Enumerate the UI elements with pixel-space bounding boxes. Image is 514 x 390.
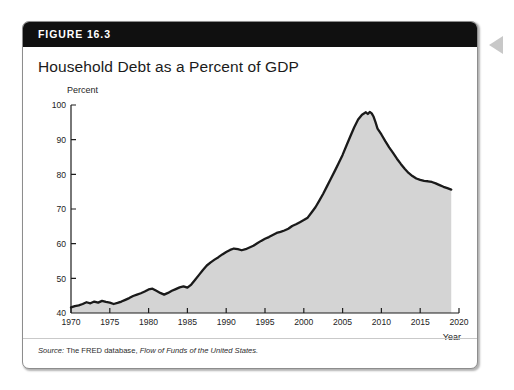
x-axis-tick-label: 1980 [139,317,158,327]
x-axis-tick-label: 2015 [411,317,430,327]
figure-source-note: Source: The FRED database, Flow of Funds… [38,346,258,355]
x-axis-name-label: Year [443,332,461,342]
y-axis-tick-label: 90 [56,135,66,145]
x-axis-tick-label: 1990 [217,317,236,327]
source-publication: Flow of Funds of the United States. [140,346,259,355]
chart-plot-area: 4050607080901001970197519801985199019952… [23,22,478,369]
source-text: The FRED database, [66,346,137,355]
y-axis-tick-label: 80 [56,170,66,180]
x-axis-tick-label: 1975 [100,317,119,327]
y-axis-tick-label: 60 [56,239,66,249]
household-debt-area-chart: 4050607080901001970197519801985199019952… [23,22,478,369]
y-axis-tick-label: 100 [52,100,67,110]
y-axis-tick-label: 70 [56,204,66,214]
x-axis-tick-label: 1970 [61,317,80,327]
x-axis-tick-label: 2000 [294,317,313,327]
x-axis-tick-label: 2010 [372,317,391,327]
chart-area-fill [71,112,451,313]
x-axis-tick-label: 2020 [449,317,468,327]
source-prefix: Source: [38,346,64,355]
x-axis-tick-label: 2005 [333,317,352,327]
y-axis-tick-label: 50 [56,274,66,284]
x-axis-tick-label: 1985 [178,317,197,327]
source-divider [23,338,478,339]
left-triangle-icon [489,36,503,54]
figure-card: FIGURE 16.3 Household Debt as a Percent … [22,21,478,369]
x-axis-tick-label: 1995 [255,317,274,327]
